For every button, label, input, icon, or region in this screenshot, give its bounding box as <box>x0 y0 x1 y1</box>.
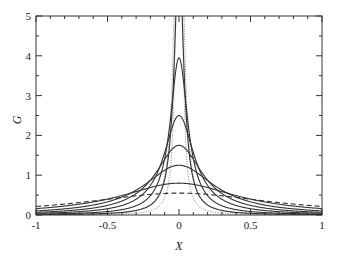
y-tick-label: 4 <box>26 50 32 62</box>
x-tick-label: -0.5 <box>99 219 117 231</box>
y-tick-label: 5 <box>26 10 32 22</box>
x-tick-label: -1 <box>31 219 40 231</box>
y-axis-label: G <box>10 115 24 124</box>
curve-solid-1 <box>36 0 322 215</box>
curve-solid-6 <box>36 183 322 208</box>
curve-solid-3 <box>36 116 322 214</box>
x-tick-label: 0 <box>176 219 182 231</box>
chart: -1-0.500.51012345 X G <box>0 0 344 262</box>
curves-group <box>36 0 322 215</box>
y-tick-label: 0 <box>26 209 32 221</box>
curve-dotted-narrow-1 <box>36 0 322 215</box>
x-tick-label: 0.5 <box>244 219 258 231</box>
x-tick-label: 1 <box>319 219 325 231</box>
curve-dotted-narrow-2 <box>36 0 322 215</box>
x-axis-label: X <box>174 239 183 253</box>
y-tick-label: 1 <box>26 169 32 181</box>
y-tick-label: 3 <box>26 90 32 102</box>
curve-solid-2 <box>36 58 322 214</box>
y-tick-label: 2 <box>26 129 32 141</box>
